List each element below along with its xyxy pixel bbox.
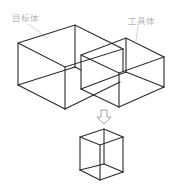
- result-box: [80, 129, 123, 180]
- down-arrow-icon: [97, 110, 111, 124]
- leader-tool-body: [136, 26, 138, 41]
- boolean-diagram: [0, 0, 179, 193]
- leader-target-body: [28, 24, 48, 38]
